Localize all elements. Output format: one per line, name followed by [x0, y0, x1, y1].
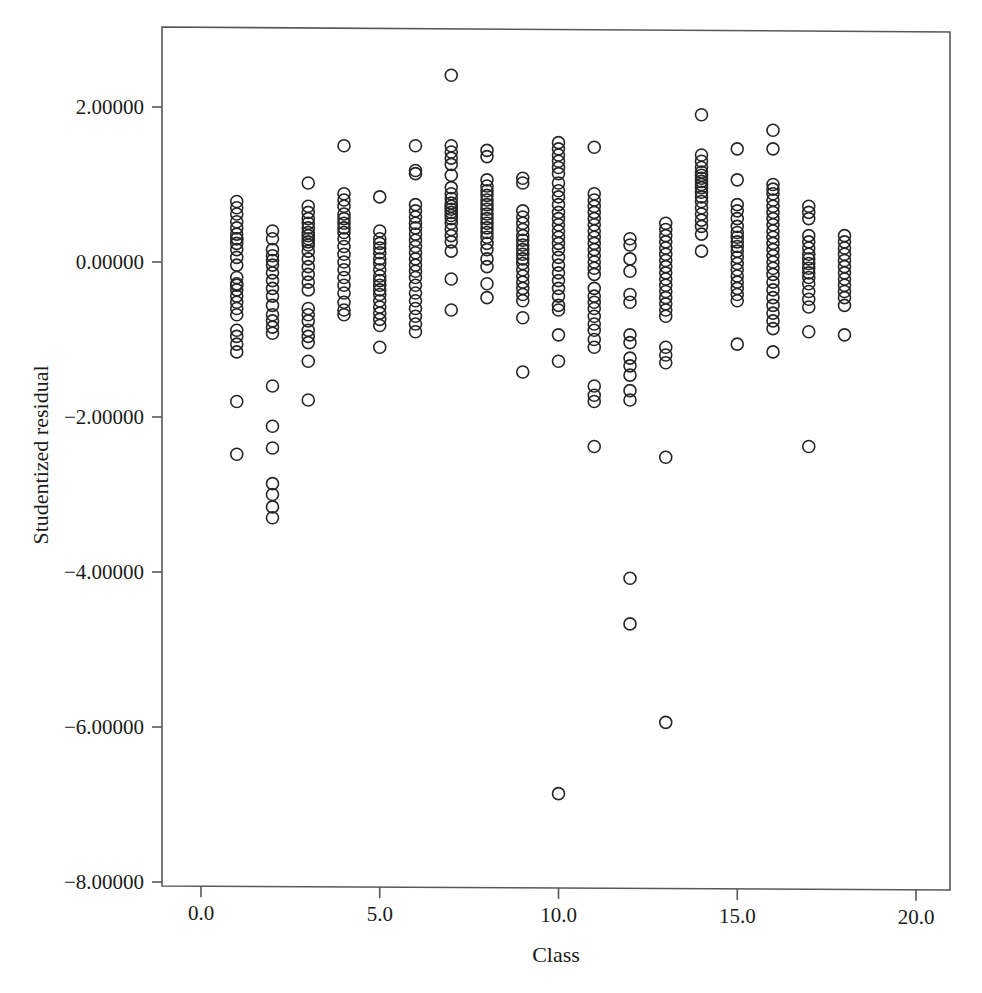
scatter-point [624, 337, 636, 349]
y-tick-label: 2.00000 [76, 95, 144, 119]
scatter-point [660, 451, 672, 463]
x-tick-label: 0.0 [188, 901, 214, 925]
scatter-point [231, 259, 243, 271]
scatter-point [696, 245, 708, 257]
scatter-point [624, 296, 636, 308]
scatter-point [481, 292, 493, 304]
scatter-point [302, 284, 314, 296]
scatter-point [696, 109, 708, 121]
scatter-point [624, 369, 636, 381]
scatter-point [302, 177, 314, 189]
scatter-point [481, 278, 493, 290]
scatter-point [731, 174, 743, 186]
scatter-point [803, 326, 815, 338]
scatter-point [624, 394, 636, 406]
scatter-point [731, 338, 743, 350]
scatter-point [445, 304, 457, 316]
scatter-point [553, 355, 565, 367]
x-axis-tick-labels: 0.05.010.015.020.0 [188, 901, 935, 929]
scatter-point [410, 326, 422, 338]
scatter-point [803, 440, 815, 452]
scatter-point [624, 253, 636, 265]
scatter-point [267, 420, 279, 432]
x-tick-label: 15.0 [719, 904, 756, 928]
scatter-point [660, 357, 672, 369]
scatter-point [231, 346, 243, 358]
x-tick-label: 10.0 [540, 903, 577, 927]
scatter-point [517, 366, 529, 378]
scatter-point [839, 299, 851, 311]
scatter-point [267, 380, 279, 392]
y-axis-ticks [152, 107, 162, 882]
scatter-point [445, 273, 457, 285]
scatter-point [767, 124, 779, 136]
scatter-point [624, 265, 636, 277]
scatter-plot-figure: 2.000000.00000−2.00000−4.00000−6.00000−8… [0, 0, 982, 993]
scatter-points-layer [231, 69, 851, 799]
scatter-point [696, 228, 708, 240]
x-tick-label: 5.0 [367, 902, 393, 926]
scatter-point [767, 143, 779, 155]
scatter-point [517, 312, 529, 324]
scatter-point [445, 69, 457, 81]
scatter-point [553, 329, 565, 341]
x-axis-ticks [201, 886, 916, 901]
scatter-point [374, 191, 386, 203]
scatter-point [302, 394, 314, 406]
scatter-point [553, 788, 565, 800]
scatter-point [588, 341, 600, 353]
scatter-point [231, 396, 243, 408]
scatter-point [302, 355, 314, 367]
scatter-point [338, 140, 350, 152]
y-tick-label: −2.00000 [64, 405, 144, 429]
y-tick-label: −8.00000 [64, 870, 144, 894]
scatter-point [624, 618, 636, 630]
scatter-point [374, 341, 386, 353]
x-tick-label: 20.0 [898, 905, 935, 929]
scatter-point [231, 448, 243, 460]
scatter-point [767, 346, 779, 358]
scatter-point [588, 440, 600, 452]
scatter-point [660, 716, 672, 728]
scatter-point [445, 245, 457, 257]
x-axis-title: Class [532, 942, 580, 967]
scatter-point [767, 323, 779, 335]
scatter-point [731, 143, 743, 155]
y-tick-label: −4.00000 [64, 560, 144, 584]
scatter-point [267, 442, 279, 454]
chart-canvas: 2.000000.00000−2.00000−4.00000−6.00000−8… [0, 0, 982, 993]
y-axis-title: Studentized residual [28, 365, 53, 544]
scatter-point [803, 301, 815, 313]
scatter-point [410, 140, 422, 152]
y-tick-label: 0.00000 [76, 250, 144, 274]
scatter-point [481, 261, 493, 273]
scatter-point [624, 572, 636, 584]
scatter-point [588, 141, 600, 153]
scatter-point [839, 329, 851, 341]
y-tick-label: −6.00000 [64, 715, 144, 739]
y-axis-tick-labels: 2.000000.00000−2.00000−4.00000−6.00000−8… [64, 95, 144, 894]
